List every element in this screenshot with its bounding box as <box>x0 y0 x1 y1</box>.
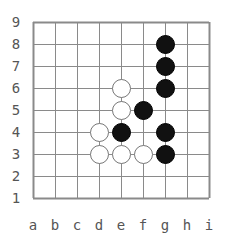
black-stone-g4 <box>156 123 175 142</box>
column-label-c: c <box>70 218 84 232</box>
column-label-f: f <box>136 218 150 232</box>
row-label-7: 7 <box>9 59 23 73</box>
board-grid <box>0 0 225 242</box>
row-label-1: 1 <box>9 191 23 205</box>
white-stone-e3 <box>112 145 131 164</box>
column-label-g: g <box>158 218 172 232</box>
column-label-a: a <box>26 218 40 232</box>
column-label-i: i <box>202 218 216 232</box>
white-stone-f3 <box>134 145 153 164</box>
black-stone-g3 <box>156 145 175 164</box>
row-label-4: 4 <box>9 125 23 139</box>
row-label-3: 3 <box>9 147 23 161</box>
black-stone-g7 <box>156 57 175 76</box>
white-stone-d4 <box>90 123 109 142</box>
row-label-9: 9 <box>9 15 23 29</box>
white-stone-e6 <box>112 79 131 98</box>
row-label-2: 2 <box>9 169 23 183</box>
row-label-8: 8 <box>9 37 23 51</box>
white-stone-d3 <box>90 145 109 164</box>
black-stone-g8 <box>156 35 175 54</box>
white-stone-e5 <box>112 101 131 120</box>
game-board[interactable]: abcdefghi 123456789 <box>0 0 225 242</box>
black-stone-f5 <box>134 101 153 120</box>
row-label-6: 6 <box>9 81 23 95</box>
column-label-d: d <box>92 218 106 232</box>
black-stone-e4 <box>112 123 131 142</box>
column-label-e: e <box>114 218 128 232</box>
row-label-5: 5 <box>9 103 23 117</box>
column-label-b: b <box>48 218 62 232</box>
black-stone-g6 <box>156 79 175 98</box>
column-label-h: h <box>180 218 194 232</box>
